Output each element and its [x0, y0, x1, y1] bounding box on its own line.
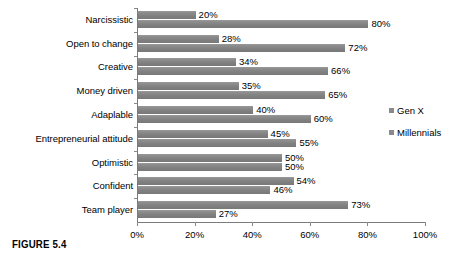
bar-millennials	[138, 139, 296, 147]
y-axis-tick	[134, 8, 137, 9]
x-axis-tick-label: 20%	[185, 229, 204, 240]
bar-value-label: 34%	[239, 57, 258, 66]
bar-millennials	[138, 20, 368, 28]
x-axis-tick	[195, 222, 196, 226]
bar-value-label: 27%	[219, 209, 238, 218]
x-axis-tick-label: 0%	[130, 229, 144, 240]
bar-millennials	[138, 44, 345, 52]
bar-value-label: 54%	[297, 176, 316, 185]
bar-gen-x	[138, 82, 239, 90]
bar-millennials	[138, 67, 328, 75]
bar-millennials	[138, 186, 270, 194]
x-axis-tick	[137, 222, 138, 226]
bar-value-label: 50%	[285, 162, 304, 171]
bar-millennials	[138, 115, 311, 123]
bar-gen-x	[138, 154, 282, 162]
y-axis-tick	[134, 151, 137, 152]
category-label: Money driven	[5, 86, 133, 96]
bar-gen-x	[138, 58, 236, 66]
legend-swatch-icon	[389, 108, 394, 113]
bar-gen-x	[138, 201, 348, 209]
bar-gen-x	[138, 35, 219, 43]
x-axis-tick-label: 100%	[413, 229, 437, 240]
x-axis-tick	[425, 222, 426, 226]
category-axis-labels: NarcissisticOpen to changeCreativeMoney …	[0, 8, 133, 222]
bar-value-label: 73%	[351, 200, 370, 209]
legend-label: Gen X	[397, 106, 424, 116]
bar-millennials	[138, 163, 282, 171]
bar-gen-x	[138, 177, 294, 185]
category-label: Narcissistic	[5, 15, 133, 25]
bar-value-label: 35%	[242, 81, 261, 90]
category-label: Creative	[5, 62, 133, 72]
figure-caption: FIGURE 5.4	[12, 238, 66, 250]
x-axis-tick-label: 60%	[300, 229, 319, 240]
bar-value-label: 40%	[256, 105, 275, 114]
category-label: Open to change	[5, 39, 133, 49]
bar-value-label: 80%	[371, 19, 390, 28]
x-axis-tick-label: 40%	[243, 229, 262, 240]
x-axis-tick	[252, 222, 253, 226]
bar-value-label: 20%	[199, 10, 218, 19]
legend-swatch-icon	[389, 130, 394, 135]
bar-millennials	[138, 210, 216, 218]
x-axis-tick	[310, 222, 311, 226]
legend-item: Gen X	[389, 101, 463, 123]
y-axis-tick	[134, 198, 137, 199]
bar-value-label: 66%	[331, 66, 350, 75]
bar-value-label: 46%	[273, 185, 292, 194]
y-axis-tick	[134, 127, 137, 128]
bar-value-label: 55%	[299, 138, 318, 147]
category-label: Adaplable	[5, 110, 133, 120]
bar-value-label: 45%	[271, 129, 290, 138]
figure-5-4: NarcissisticOpen to changeCreativeMoney …	[0, 0, 463, 259]
bar-value-label: 72%	[348, 43, 367, 52]
x-axis-tick-label: 80%	[358, 229, 377, 240]
bar-gen-x	[138, 106, 253, 114]
category-label: Confident	[5, 181, 133, 191]
y-axis-tick	[134, 56, 137, 57]
value-axis-line	[137, 222, 425, 223]
y-axis-tick	[134, 32, 137, 33]
x-axis-tick	[367, 222, 368, 226]
y-axis-tick	[134, 79, 137, 80]
bar-value-label: 60%	[314, 114, 333, 123]
category-label: Entrepreneurial attitude	[5, 134, 133, 144]
category-label: Team player	[5, 205, 133, 215]
bar-millennials	[138, 91, 325, 99]
y-axis-tick	[134, 174, 137, 175]
bar-gen-x	[138, 130, 268, 138]
category-label: Optimistic	[5, 158, 133, 168]
bar-value-label: 28%	[222, 34, 241, 43]
legend-label: Millennials	[397, 128, 441, 138]
chart-legend: Gen XMillennials	[389, 101, 463, 145]
legend-item: Millennials	[389, 123, 463, 145]
y-axis-tick	[134, 103, 137, 104]
bar-gen-x	[138, 11, 196, 19]
bar-value-label: 65%	[328, 90, 347, 99]
plot-area: 0%20%40%60%80%100%20%80%28%72%34%66%35%6…	[137, 8, 425, 222]
